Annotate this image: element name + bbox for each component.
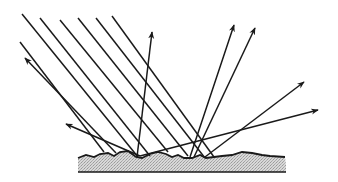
diagram-canvas	[0, 0, 338, 182]
reflected-rays	[25, 25, 318, 157]
reflected-ray-arrow-icon	[205, 82, 304, 157]
incident-ray	[22, 14, 138, 157]
incident-rays	[20, 14, 214, 158]
reflected-ray-arrow-icon	[140, 110, 318, 156]
incident-ray	[112, 16, 214, 157]
rough-surface	[78, 151, 286, 172]
reflected-ray-arrow-icon	[194, 28, 255, 157]
diffuse-reflection-diagram: Diffuse reflection from a rough surface	[0, 0, 338, 182]
